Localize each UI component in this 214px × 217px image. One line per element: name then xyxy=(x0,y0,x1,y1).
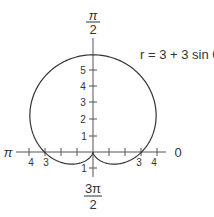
angle-label-top-numerator: π xyxy=(89,8,98,23)
tick-label-y-1: 1 xyxy=(81,131,87,142)
tick-label-y-4: 4 xyxy=(80,81,86,92)
angle-label-bottom-denominator: 2 xyxy=(89,197,96,212)
angle-label-pi: π xyxy=(4,145,13,160)
tick-label-y-neg-1: 1 xyxy=(81,163,87,174)
tick-label-x-left-4: 4 xyxy=(28,157,34,168)
angle-label-bottom-numerator: 3π xyxy=(85,181,101,196)
tick-label-x-right-3: 3 xyxy=(136,157,142,168)
angle-label-top-denominator: 2 xyxy=(89,22,96,37)
equation-label: r = 3 + 3 sin θ xyxy=(140,47,214,62)
angle-label-pi-over-2: π 2 xyxy=(86,8,100,37)
tick-label-y-3: 3 xyxy=(80,97,86,108)
tick-label-x-left-3: 3 xyxy=(43,157,49,168)
tick-label-x-right-4: 4 xyxy=(151,157,157,168)
angle-label-3pi-over-2: 3π 2 xyxy=(84,181,102,212)
polar-plot: 5 4 3 2 1 1 4 3 3 4 π 2 3π 2 π 0 r = 3 +… xyxy=(0,0,214,217)
angle-label-zero: 0 xyxy=(174,145,181,160)
tick-label-y-5: 5 xyxy=(80,65,86,76)
tick-label-y-2: 2 xyxy=(80,114,86,125)
